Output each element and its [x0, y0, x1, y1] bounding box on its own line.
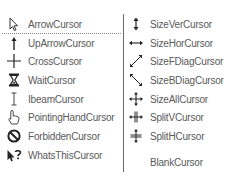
size-all-icon — [128, 91, 144, 107]
list-item-whats-this-cursor[interactable]: WhatsThisCursor — [6, 146, 102, 164]
list-item-blank-cursor[interactable]: BlankCursor — [128, 153, 203, 171]
item-label: ForbiddenCursor — [28, 131, 100, 142]
item-label: SplitHCursor — [150, 131, 204, 142]
column-divider — [123, 14, 124, 172]
size-bdiag-icon — [128, 72, 144, 88]
item-label: UpArrowCursor — [28, 38, 94, 49]
item-label: CrossCursor — [28, 56, 82, 67]
forbidden-icon — [6, 128, 22, 144]
list-item-wait-cursor[interactable]: WaitCursor — [6, 71, 76, 89]
list-item-up-arrow-cursor[interactable]: UpArrowCursor — [6, 34, 94, 52]
list-item-arrow-cursor[interactable]: ArrowCursor — [6, 15, 82, 33]
list-item-pointing-hand-cursor[interactable]: PointingHandCursor — [6, 108, 114, 126]
item-label: SizeHorCursor — [150, 38, 213, 49]
list-item-cross-cursor[interactable]: CrossCursor — [6, 52, 82, 70]
item-label: ArrowCursor — [28, 19, 82, 30]
size-horizontal-icon — [128, 35, 144, 51]
hourglass-icon — [6, 72, 22, 88]
list-item-size-bdiag-cursor[interactable]: SizeBDiagCursor — [128, 71, 224, 89]
list-item-size-hor-cursor[interactable]: SizeHorCursor — [128, 34, 213, 52]
cross-cursor-icon — [6, 53, 22, 69]
whats-this-icon — [6, 147, 22, 163]
up-arrow-cursor-icon — [6, 35, 22, 51]
item-label: SizeAllCursor — [150, 94, 208, 105]
split-v-icon — [128, 109, 144, 125]
list-item-split-v-cursor[interactable]: SplitVCursor — [128, 108, 204, 126]
list-item-size-fdiag-cursor[interactable]: SizeFDiagCursor — [128, 52, 223, 70]
item-label: WaitCursor — [28, 75, 76, 86]
item-label: SizeFDiagCursor — [150, 56, 223, 67]
pointing-hand-icon — [6, 109, 22, 125]
size-vertical-icon — [128, 16, 144, 32]
list-item-forbidden-cursor[interactable]: ForbiddenCursor — [6, 127, 100, 145]
item-label: SizeVerCursor — [150, 19, 212, 30]
ibeam-icon — [6, 91, 22, 107]
item-label: SizeBDiagCursor — [150, 75, 224, 86]
item-label: SplitVCursor — [150, 112, 204, 123]
list-item-size-all-cursor[interactable]: SizeAllCursor — [128, 90, 208, 108]
item-label: BlankCursor — [150, 157, 203, 168]
list-item-split-h-cursor[interactable]: SplitHCursor — [128, 127, 204, 145]
item-label: WhatsThisCursor — [28, 150, 102, 161]
size-fdiag-icon — [128, 53, 144, 69]
blank-icon — [128, 154, 144, 170]
split-h-icon — [128, 128, 144, 144]
item-label: PointingHandCursor — [28, 112, 114, 123]
list-item-ibeam-cursor[interactable]: IbeamCursor — [6, 90, 84, 108]
arrow-cursor-icon — [6, 16, 22, 32]
list-item-size-ver-cursor[interactable]: SizeVerCursor — [128, 15, 212, 33]
item-label: IbeamCursor — [28, 94, 84, 105]
